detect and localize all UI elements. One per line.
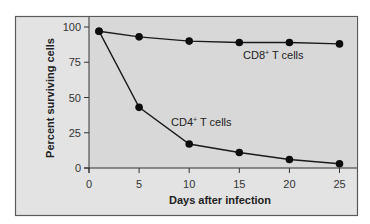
plot-area [89, 17, 357, 168]
y-tick-label: 100 [63, 21, 81, 33]
line-chart: 0255075100 0510152025 CD8+ T cells CD4+ … [0, 0, 370, 224]
y-tick-label: 50 [69, 92, 81, 104]
y-axis-title: Percent surviving cells [44, 38, 56, 158]
y-tick-label: 75 [69, 56, 81, 68]
data-point-marker [185, 140, 193, 148]
x-tick-label: 5 [136, 178, 142, 190]
y-tick-label: 25 [69, 127, 81, 139]
x-tick-label: 15 [233, 178, 245, 190]
data-point-marker [95, 27, 103, 35]
series-label-cd4: CD4+ T cells [171, 116, 232, 128]
data-point-marker [336, 40, 344, 48]
x-tick-label: 10 [183, 178, 195, 190]
x-tick-label: 0 [86, 178, 92, 190]
data-point-marker [185, 37, 193, 45]
series-label-cd8: CD8+ T cells [243, 49, 304, 61]
data-point-marker [336, 160, 344, 168]
y-tick-label: 0 [75, 162, 81, 174]
data-point-marker [135, 104, 143, 112]
x-tick-label: 20 [283, 178, 295, 190]
data-point-marker [286, 39, 294, 47]
data-point-marker [236, 149, 244, 157]
data-point-marker [286, 156, 294, 164]
data-point-marker [135, 33, 143, 41]
x-tick-label: 25 [333, 178, 345, 190]
x-axis-title: Days after infection [169, 194, 271, 206]
data-point-marker [236, 39, 244, 47]
